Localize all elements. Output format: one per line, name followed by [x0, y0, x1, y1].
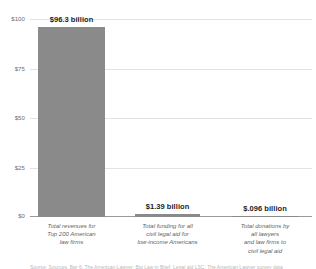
bar-chart: $100 $75 $50 $25 $0 $96.3 billion $1. [0, 0, 316, 269]
category-label-1-line-1: Total revenues for [38, 222, 105, 230]
category-label-3: Total donations by all lawyers and law f… [228, 222, 302, 255]
y-axis-tick-50: $50 [15, 115, 25, 121]
category-label-3-line-3: and law firms to [228, 238, 302, 246]
category-label-2-line-3: low-income Americans [131, 238, 204, 246]
category-label-3-line-2: all lawyers [228, 230, 302, 238]
category-label-3-line-4: civil legal aid [228, 247, 302, 255]
y-axis-tick-100: $100 [11, 16, 25, 22]
source-note: Source: Sources, Bar 6: The American Law… [30, 264, 316, 269]
y-axis-tick-75: $75 [15, 66, 25, 72]
bar-civil-legal-aid-funding[interactable] [135, 214, 200, 217]
bar-value-label-2: $1.39 billion [146, 202, 190, 211]
bar-value-label-3: $.096 billion [243, 204, 287, 213]
plot-area: $100 $75 $50 $25 $0 $96.3 billion $1. [30, 19, 312, 217]
category-label-1-line-3: law firms [38, 238, 105, 246]
category-label-1: Total revenues for Top 200 American law … [38, 222, 105, 247]
category-label-2-line-2: civil legal aid for [131, 230, 204, 238]
bar-group-3: $.096 billion [232, 19, 298, 217]
category-label-3-line-1: Total donations by [228, 222, 302, 230]
bar-lawyer-donations[interactable] [232, 216, 298, 218]
y-axis-tick-0: $0 [18, 213, 25, 219]
category-label-2: Total funding for all civil legal aid fo… [131, 222, 204, 247]
bar-group-2: $1.39 billion [135, 19, 200, 217]
bar-total-law-firm-revenues[interactable] [38, 27, 105, 217]
bar-value-label-1: $96.3 billion [50, 15, 94, 24]
y-axis-tick-25: $25 [15, 165, 25, 171]
bar-group-1: $96.3 billion [38, 19, 105, 217]
category-label-2-line-1: Total funding for all [131, 222, 204, 230]
category-label-1-line-2: Top 200 American [38, 230, 105, 238]
bar-series: $96.3 billion $1.39 billion $.096 billio… [30, 19, 312, 217]
x-axis-category-labels: Total revenues for Top 200 American law … [30, 222, 312, 260]
